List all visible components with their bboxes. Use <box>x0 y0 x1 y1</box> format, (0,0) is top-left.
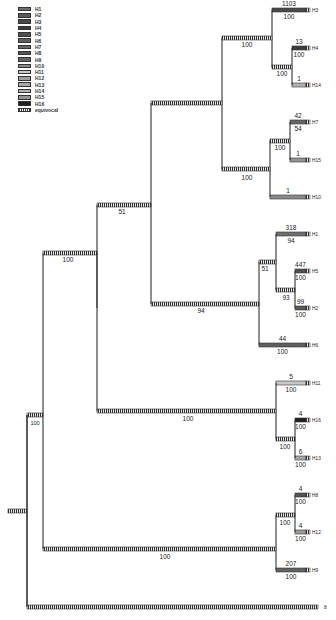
leaf-support: 100 <box>286 386 297 393</box>
leaf-label-h13: H13 <box>312 456 321 461</box>
leaf-tip-marker <box>306 195 310 199</box>
leaf-branch-h15 <box>290 158 306 162</box>
leaf-tip-marker <box>306 381 310 385</box>
leaf-support: 100 <box>295 535 306 542</box>
leaf-count: 4 <box>299 410 303 417</box>
leaf-tip-marker <box>306 269 310 273</box>
leaf-branch-h11 <box>276 381 306 385</box>
bootstrap-value: 100 <box>242 41 253 48</box>
internal-branch <box>97 203 151 207</box>
leaf-label-h12: H12 <box>312 530 321 535</box>
leaf-branch-h10 <box>270 195 306 199</box>
bootstrap-value: 100 <box>183 415 194 422</box>
leaf-label-h11: H11 <box>312 381 321 386</box>
bootstrap-value: 100 <box>63 256 74 263</box>
leaf-tip-marker <box>306 83 310 87</box>
leaf-branch-h8 <box>295 493 306 497</box>
leaf-branch-h3 <box>272 8 306 12</box>
leaf-support: 100 <box>295 423 306 430</box>
leaf-branch-h7 <box>290 120 306 124</box>
leaf-label-h5: H5 <box>312 269 318 274</box>
internal-branch <box>276 288 295 292</box>
leaf-support: 100 <box>295 498 306 505</box>
leaf-count: 207 <box>286 560 297 567</box>
leaf-tip-marker <box>306 456 310 460</box>
internal-branch <box>43 547 276 551</box>
leaf-branch-outgroup <box>27 605 318 609</box>
leaf-count: 42 <box>294 112 302 119</box>
internal-branch <box>222 167 270 171</box>
leaf-support: 100 <box>277 348 288 355</box>
leaf-label-h2: H2 <box>312 306 318 311</box>
leaf-tip-marker <box>306 46 310 50</box>
leaf-count: 99 <box>297 298 305 305</box>
bootstrap-value: 51 <box>118 208 126 215</box>
leaf-label-h14: H14 <box>312 83 321 88</box>
leaf-count: 13 <box>295 38 303 45</box>
bootstrap-value: 100 <box>30 420 39 426</box>
leaf-tip-marker <box>306 343 310 347</box>
bootstrap-value: 100 <box>280 519 291 526</box>
internal-branch <box>259 260 276 264</box>
leaf-label-outgroup: 8 <box>324 605 327 610</box>
leaf-count: 1103 <box>282 0 296 7</box>
leaf-count: 1 <box>296 150 300 157</box>
internal-branch <box>97 409 276 413</box>
leaf-branch-h14 <box>292 83 306 87</box>
leaf-label-h10: H10 <box>312 195 321 200</box>
bootstrap-value: 51 <box>261 265 269 272</box>
internal-branch <box>270 139 290 143</box>
internal-branch <box>151 302 259 306</box>
leaf-branch-h1 <box>276 232 306 236</box>
phylogenetic-tree: H31103100H413100H141100H74254H151100H101… <box>0 0 336 620</box>
leaf-label-h4: H4 <box>312 46 318 51</box>
leaf-branch-h2 <box>295 306 306 310</box>
leaf-label-h3: H3 <box>312 8 318 13</box>
leaf-count: 4 <box>299 522 303 529</box>
bootstrap-value: 94 <box>197 307 205 314</box>
internal-branch <box>222 36 272 40</box>
leaf-count: 318 <box>286 224 297 231</box>
leaf-support: 100 <box>295 311 306 318</box>
bootstrap-value: 100 <box>277 70 288 77</box>
leaf-tip-marker <box>306 8 310 12</box>
leaf-tip-marker <box>306 158 310 162</box>
leaf-label-h8: H8 <box>312 493 318 498</box>
internal-branch <box>276 437 295 441</box>
leaf-tip-marker <box>306 568 310 572</box>
leaf-support: 100 <box>286 573 297 580</box>
root-branch <box>8 509 27 513</box>
leaf-support: 100 <box>295 461 306 468</box>
leaf-branch-h9 <box>276 568 306 572</box>
leaf-count: 4 <box>299 485 303 492</box>
leaf-tip-marker <box>306 306 310 310</box>
leaf-tip-marker <box>306 120 310 124</box>
leaf-label-h9: H9 <box>312 568 318 573</box>
leaf-count: 447 <box>295 261 306 268</box>
leaf-tip-marker <box>306 493 310 497</box>
leaf-count: 44 <box>279 335 287 342</box>
leaf-label-h16: H16 <box>312 418 321 423</box>
leaf-support: 94 <box>287 237 295 244</box>
leaf-count: 1 <box>286 187 290 194</box>
leaf-tip-marker <box>306 418 310 422</box>
leaf-branch-h12 <box>295 530 306 534</box>
leaf-branch-h4 <box>292 46 306 50</box>
leaf-label-h6: H6 <box>312 343 318 348</box>
leaf-tip-marker <box>306 232 310 236</box>
internal-branch <box>272 65 292 69</box>
leaf-count: 6 <box>299 448 303 455</box>
internal-branch <box>151 101 222 105</box>
bootstrap-value: 100 <box>280 443 291 450</box>
bootstrap-value: 93 <box>282 294 290 301</box>
bootstrap-value: 100 <box>242 174 253 181</box>
bootstrap-value: 100 <box>275 144 286 151</box>
internal-branch <box>276 513 295 517</box>
leaf-label-h1: H1 <box>312 232 318 237</box>
internal-branch <box>27 413 43 417</box>
internal-branch <box>43 251 97 255</box>
leaf-support: 100 <box>295 274 306 281</box>
leaf-branch-h6 <box>259 343 306 347</box>
bootstrap-value: 100 <box>160 553 171 560</box>
leaf-label-h7: H7 <box>312 120 318 125</box>
